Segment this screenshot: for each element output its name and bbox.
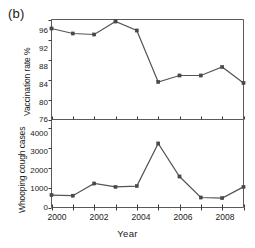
xtick-2004: 2004 (132, 212, 151, 222)
top-ytick-76: 76 (32, 115, 48, 124)
figure-panel-b: (b) Vaccination rate % Whooping cough ca… (0, 0, 255, 248)
top-ytick-88: 88 (32, 62, 48, 71)
bottom-ytick-4000: 4000 (24, 129, 48, 138)
axis-ticks (49, 21, 245, 211)
top-series-vaccination-rate (50, 20, 245, 85)
top-panel-y-axis-title: Vaccination rate % (22, 48, 32, 116)
top-ytick-92: 92 (32, 44, 48, 53)
xtick-2002: 2002 (90, 212, 109, 222)
xtick-2006: 2006 (174, 212, 193, 222)
bottom-ytick-1000: 1000 (24, 184, 48, 193)
x-axis-title: Year (0, 228, 255, 239)
bottom-series-whooping-cough-cases (50, 142, 245, 200)
panel-label: (b) (8, 6, 25, 21)
bottom-ytick-3000: 3000 (24, 147, 48, 156)
xtick-2008: 2008 (216, 212, 235, 222)
xtick-2000: 2000 (48, 212, 67, 222)
bottom-ytick-2000: 2000 (24, 166, 48, 175)
bottom-ytick-0: 0 (24, 203, 48, 212)
top-ytick-96: 96 (32, 26, 48, 35)
top-ytick-84: 84 (32, 80, 48, 89)
top-ytick-80: 80 (32, 98, 48, 107)
